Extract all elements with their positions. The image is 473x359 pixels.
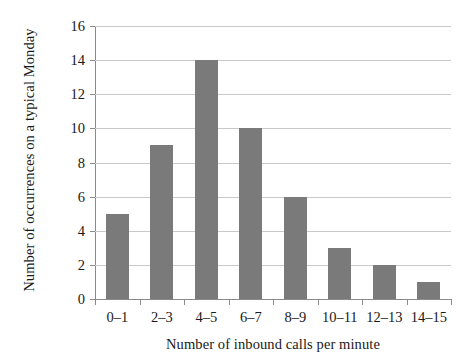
x-tick-label-0–1: 0–1 bbox=[106, 308, 128, 326]
bar-4–5 bbox=[195, 60, 218, 299]
x-tick-mark-6 bbox=[362, 299, 363, 305]
bar-series bbox=[95, 26, 451, 299]
y-tick-mark-6 bbox=[90, 197, 95, 198]
x-tick-label-10–11: 10–11 bbox=[322, 308, 358, 326]
bar-14–15 bbox=[417, 282, 440, 299]
x-tick-mark-2 bbox=[184, 299, 185, 305]
y-tick-mark-0 bbox=[90, 299, 95, 300]
bar-10–11 bbox=[328, 248, 351, 299]
bar-chart-figure: Number of occurrences on a typical Monda… bbox=[0, 0, 473, 359]
y-tick-label-8: 8 bbox=[59, 155, 85, 170]
y-tick-label-12: 12 bbox=[59, 87, 85, 102]
y-tick-mark-10 bbox=[90, 128, 95, 129]
bar-0–1 bbox=[106, 214, 129, 299]
y-tick-mark-4 bbox=[90, 231, 95, 232]
x-tick-label-8–9: 8–9 bbox=[284, 308, 306, 326]
y-tick-mark-14 bbox=[90, 60, 95, 61]
y-tick-label-4: 4 bbox=[59, 224, 85, 239]
x-tick-mark-4 bbox=[273, 299, 274, 305]
bar-2–3 bbox=[150, 145, 173, 299]
plot-area bbox=[95, 26, 451, 299]
y-axis-tick-labels: 0246810121416 bbox=[55, 0, 85, 359]
x-tick-mark-1 bbox=[140, 299, 141, 305]
y-tick-label-0: 0 bbox=[59, 292, 85, 307]
x-tick-mark-5 bbox=[318, 299, 319, 305]
x-tick-label-14–15: 14–15 bbox=[411, 308, 447, 326]
x-axis-tick-marks bbox=[95, 299, 451, 307]
y-tick-label-2: 2 bbox=[59, 258, 85, 273]
x-tick-mark-8 bbox=[451, 299, 452, 305]
bar-12–13 bbox=[373, 265, 396, 299]
x-tick-label-4–5: 4–5 bbox=[195, 308, 217, 326]
x-tick-mark-3 bbox=[229, 299, 230, 305]
x-tick-mark-0 bbox=[95, 299, 96, 305]
y-tick-mark-8 bbox=[90, 163, 95, 164]
y-tick-label-16: 16 bbox=[59, 19, 85, 34]
x-axis-tick-labels: 0–12–34–56–78–910–1112–1314–15 bbox=[95, 308, 451, 328]
x-axis-title: Number of inbound calls per minute bbox=[95, 334, 451, 354]
y-tick-mark-12 bbox=[90, 94, 95, 95]
y-tick-mark-2 bbox=[90, 265, 95, 266]
x-tick-label-2–3: 2–3 bbox=[151, 308, 173, 326]
y-axis-title: Number of occurrences on a typical Monda… bbox=[16, 10, 42, 310]
x-tick-label-12–13: 12–13 bbox=[366, 308, 402, 326]
y-tick-label-6: 6 bbox=[59, 189, 85, 204]
y-tick-label-10: 10 bbox=[59, 121, 85, 136]
y-tick-mark-16 bbox=[90, 26, 95, 27]
x-tick-mark-7 bbox=[407, 299, 408, 305]
bar-8–9 bbox=[284, 197, 307, 299]
bar-6–7 bbox=[239, 128, 262, 299]
y-tick-label-14: 14 bbox=[59, 53, 85, 68]
x-tick-label-6–7: 6–7 bbox=[240, 308, 262, 326]
